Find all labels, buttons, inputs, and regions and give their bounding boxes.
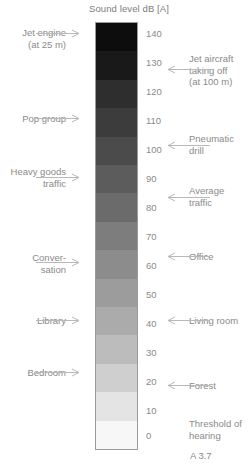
tick-label-120: 120: [146, 87, 162, 97]
scale-band-30-40: [96, 335, 137, 363]
arrow-right-jet-engine: [36, 29, 84, 38]
tick-label-40: 40: [146, 319, 157, 329]
tick-label-20: 20: [146, 377, 157, 387]
scale-band-100-110: [96, 137, 137, 165]
tick-label-90: 90: [146, 174, 157, 184]
scale-band-70-80: [96, 222, 137, 250]
arrow-right-pop-group: [36, 114, 84, 123]
tick-label-70: 70: [146, 232, 157, 242]
annotation-threshold-of-hearing: Threshold of hearing: [189, 418, 242, 441]
tick-label-60: 60: [146, 261, 157, 271]
tick-label-30: 30: [146, 348, 157, 358]
scale-band-130-140: [96, 51, 137, 79]
tick-label-50: 50: [146, 290, 157, 300]
scale-band-40-50: [96, 307, 137, 335]
scale-band-90-100: [96, 165, 137, 193]
arrow-right-conversation: [36, 258, 84, 267]
scale-band-120-130: [96, 80, 137, 108]
annotation-jet-aircraft-line-1: Jet aircraft: [189, 53, 233, 65]
sound-level-scale-bar: [95, 22, 138, 450]
tick-label-100: 100: [146, 145, 162, 155]
tick-label-130: 130: [146, 58, 162, 68]
scale-band-110-120: [96, 108, 137, 136]
tick-label-80: 80: [146, 203, 157, 213]
chart-title: Sound level dB [A]: [3, 3, 252, 14]
arrow-left-pneumatic-drill: [168, 141, 210, 150]
tick-label-0: 0: [146, 431, 151, 441]
tick-label-110: 110: [146, 116, 161, 126]
figure-reference: A 3.7: [190, 450, 212, 461]
arrow-left-average-traffic: [168, 193, 210, 202]
arrow-left-forest: [168, 381, 210, 390]
arrow-right-bedroom: [36, 368, 84, 377]
scale-band-50-60: [96, 279, 137, 307]
arrow-right-heavy-goods-traffic: [36, 173, 84, 182]
annotation-jet-engine-line-2: (at 25 m): [22, 39, 66, 51]
annotation-jet-aircraft-line-3: (at 100 m): [189, 76, 233, 88]
tick-label-140: 140: [146, 29, 162, 39]
scale-band-140-150: [96, 23, 137, 51]
scale-band-60-70: [96, 250, 137, 278]
arrow-left-living-room: [168, 316, 210, 325]
scale-band-80-90: [96, 193, 137, 221]
scale-band-20-30: [96, 364, 137, 392]
scale-band-10-20: [96, 392, 137, 420]
annotation-threshold-line-1: Threshold of: [189, 418, 242, 430]
annotation-threshold-line-2: hearing: [189, 430, 242, 442]
arrow-right-library: [36, 316, 84, 325]
scale-band-0-10: [96, 421, 137, 449]
arrow-left-jet-aircraft: [168, 65, 210, 74]
arrow-left-office: [168, 252, 210, 261]
tick-label-10: 10: [146, 406, 157, 416]
